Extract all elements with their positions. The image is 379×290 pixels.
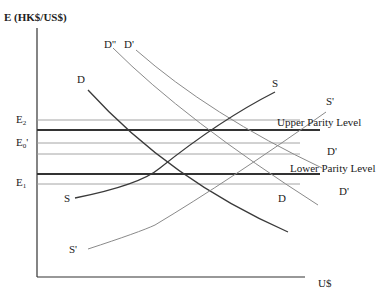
lower-parity-label: Lower Parity Level — [290, 163, 376, 174]
curve-label-d-double-prime: D'' — [104, 39, 116, 50]
curve-label-d-low: D — [278, 193, 286, 204]
curve-label-d-prime-mid: D' — [327, 146, 337, 157]
upper-parity-label: Upper Parity Level — [277, 117, 361, 128]
parity-diagram — [0, 0, 379, 290]
x-axis-label: U$ — [318, 278, 331, 289]
curve-label-d-prime-low: D' — [339, 186, 349, 197]
curve-label-s-prime-low: S' — [69, 244, 77, 255]
demand-curve-d — [88, 90, 288, 232]
curve-label-s-top: S — [272, 78, 278, 89]
level-label-e2: E2 — [16, 114, 26, 127]
level-label-e1: E1 — [16, 177, 26, 190]
curve-label-d-prime-top: D' — [124, 39, 134, 50]
curve-label-d-top: D — [77, 74, 85, 85]
curve-label-s-low: S — [64, 193, 70, 204]
y-axis-label: E (HK$/US$) — [4, 12, 67, 23]
level-label-e0-prime: E0' — [16, 137, 28, 150]
curve-label-s-prime-top: S' — [326, 96, 334, 107]
demand-curve-d-prime — [136, 50, 322, 168]
